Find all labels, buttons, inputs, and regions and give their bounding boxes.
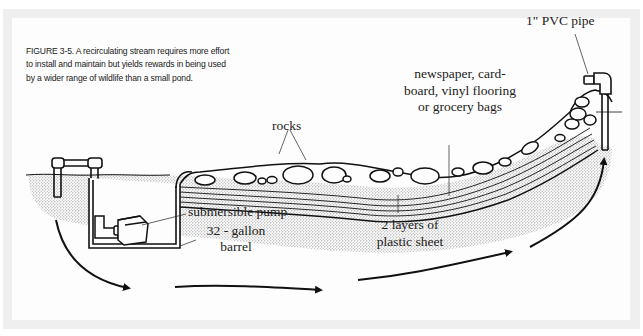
label-liner-line-1: newspaper, card- (375, 66, 545, 83)
label-liner-line-3: or grocery bags (375, 99, 545, 116)
label-liner-materials: newspaper, card- board, vinyl flooring o… (375, 66, 545, 116)
label-pvc-pipe: 1" PVC pipe (526, 13, 595, 28)
label-plastic-line-1: 2 layers of (364, 216, 456, 233)
label-barrel-line-1: 32 - gallon (196, 223, 276, 239)
label-barrel-line-2: barrel (196, 239, 276, 255)
label-rocks: rocks (272, 118, 301, 133)
label-plastic-sheet: 2 layers of plastic sheet (364, 216, 456, 250)
label-barrel: 32 - gallon barrel (196, 223, 276, 255)
leader-barrel (180, 240, 196, 246)
leader-rocks-1 (279, 130, 288, 154)
leader-pvc (575, 34, 588, 74)
label-liner-line-2: board, vinyl flooring (375, 83, 545, 100)
label-submersible-pump: submersible pump (188, 204, 287, 219)
leader-rocks-2 (290, 130, 306, 160)
label-plastic-line-2: plastic sheet (364, 233, 456, 250)
stream-diagram (0, 0, 643, 336)
flow-arrow-2 (175, 286, 320, 290)
flow-arrow-3 (358, 252, 510, 280)
